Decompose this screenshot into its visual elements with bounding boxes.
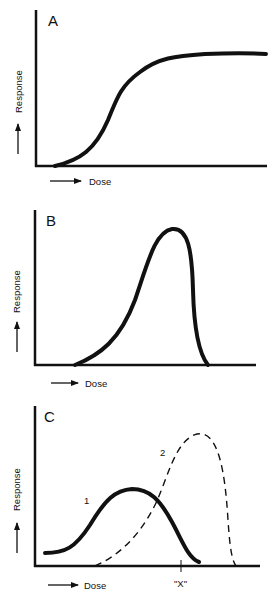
curve-1-label: 1 [84, 495, 89, 506]
curve-2-label: 2 [160, 447, 165, 458]
y-axis-label: Response [11, 468, 22, 511]
y-axis-label: Response [11, 270, 22, 313]
panel-c: "X" C Response Dose 1 2 [11, 406, 260, 591]
biphasic-curve [75, 229, 208, 365]
panel-letter: C [44, 408, 55, 425]
y-axis-label: Response [13, 70, 24, 113]
curve-2-dashed [95, 434, 236, 566]
x-axis-label: Dose [85, 378, 107, 389]
curve-1-solid [45, 489, 199, 562]
x-axis-label: Dose [89, 176, 111, 187]
panel-b: B Response Dose [11, 210, 256, 389]
panel-letter: A [48, 12, 58, 29]
x-axis-label: Dose [84, 580, 106, 591]
sigmoid-curve [55, 53, 266, 166]
x-tick-label: "X" [174, 578, 187, 589]
panel-letter: B [46, 212, 56, 229]
dose-response-figure: A Response Dose B Response Dose "X" C Re… [0, 0, 277, 603]
panel-a: A Response Dose [13, 10, 267, 187]
